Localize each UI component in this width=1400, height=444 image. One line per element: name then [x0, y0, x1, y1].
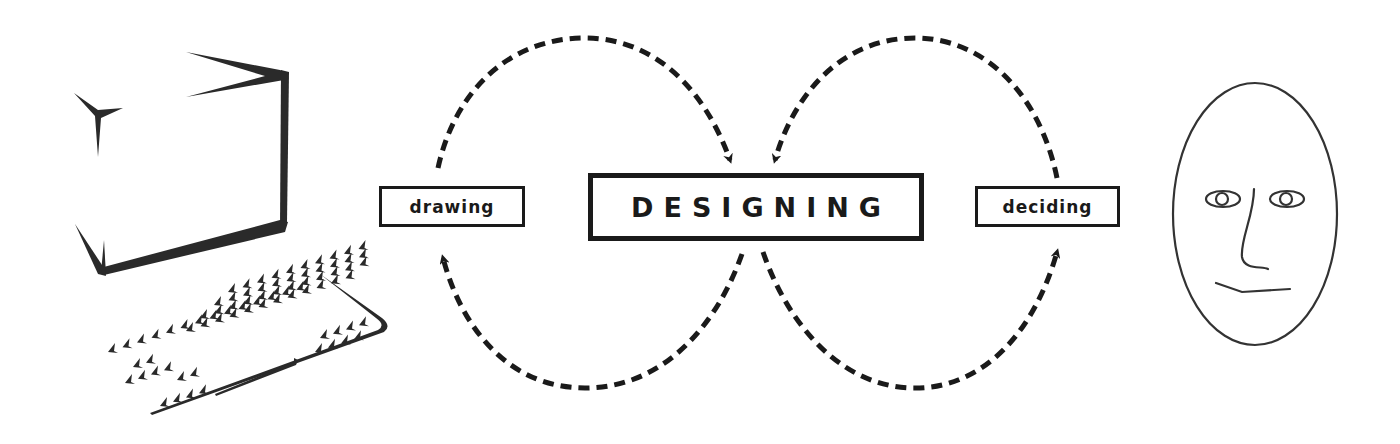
- keyboard-key: [133, 358, 143, 368]
- keyboard-key: [257, 273, 267, 283]
- computer-icon: [74, 52, 388, 415]
- keyboard-key: [146, 354, 156, 364]
- right-eye-icon: [1270, 191, 1304, 207]
- keyboard-key: [166, 324, 176, 334]
- keyboard-key: [330, 250, 340, 260]
- keyboard-key: [177, 371, 187, 381]
- arrow-deciding-to-designing: [775, 38, 1057, 178]
- keyboard-key: [315, 254, 325, 264]
- keyboard-key: [344, 245, 354, 255]
- keyboard-key: [346, 320, 356, 330]
- mouth-icon: [1216, 283, 1290, 292]
- keyboard-key: [320, 329, 330, 339]
- keyboard-key: [359, 240, 369, 250]
- keyboard-key: [151, 365, 161, 375]
- node-drawing: drawing: [379, 186, 525, 227]
- keyboard-key: [272, 269, 282, 279]
- left-eye-icon: [1206, 191, 1240, 207]
- keyboard-key: [301, 259, 311, 269]
- keyboard-key: [125, 374, 135, 384]
- keyboard-key: [359, 316, 369, 326]
- keyboard-icon: [108, 240, 388, 415]
- keyboard-key: [214, 296, 224, 306]
- node-deciding: deciding: [975, 186, 1120, 227]
- keyboard-key: [243, 278, 253, 288]
- node-drawing-label: drawing: [410, 197, 495, 217]
- keyboard-outline: [150, 274, 388, 415]
- keyboard-key: [190, 367, 200, 377]
- keyboard-key: [152, 329, 162, 339]
- keyboard-key: [173, 393, 183, 403]
- keyboard-key: [333, 325, 343, 335]
- keyboard-key: [123, 338, 133, 348]
- keyboard-key: [160, 397, 170, 407]
- node-deciding-label: deciding: [1003, 197, 1093, 217]
- monitor-icon: [74, 52, 289, 276]
- keyboard-key: [108, 343, 118, 353]
- arrow-drawing-to-designing: [438, 38, 730, 168]
- node-designing-label: DESIGNING: [631, 192, 891, 223]
- keyboard-key: [200, 309, 210, 319]
- design-cycle-diagram: drawing DESIGNING deciding: [0, 0, 1400, 444]
- face-outline: [1173, 83, 1337, 345]
- arrow-designing-to-deciding: [763, 252, 1057, 388]
- nose-icon: [1242, 189, 1268, 269]
- arrow-designing-to-drawing: [443, 254, 742, 388]
- keyboard-key: [164, 361, 174, 371]
- node-designing: DESIGNING: [588, 173, 924, 241]
- keyboard-key: [137, 333, 147, 343]
- keyboard-key: [228, 283, 238, 293]
- keyboard-key: [138, 370, 148, 380]
- keyboard-key: [186, 322, 196, 332]
- keyboard-key: [286, 264, 296, 274]
- face-icon: [1173, 83, 1337, 345]
